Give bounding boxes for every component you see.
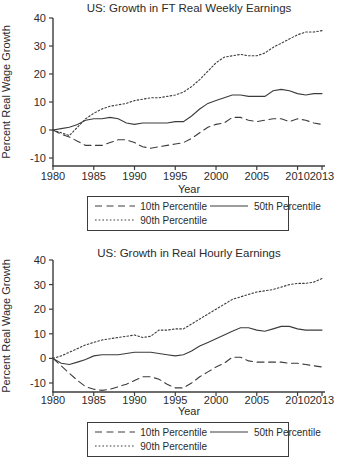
hourly-earnings-chart: 403020100-101980198519901995200020052010… — [0, 243, 340, 469]
x-tick-label: 1995 — [163, 170, 187, 182]
x-tick-label: 2010 — [285, 170, 309, 182]
legend-item-50th-percentile: 50th Percentile — [209, 201, 321, 212]
series-line-50th-percentile — [53, 89, 322, 130]
x-tick-label: 1990 — [122, 394, 146, 406]
y-tick-label: 40 — [34, 254, 46, 266]
x-tick-label: 1985 — [82, 394, 106, 406]
chart-title: US: Growth in Real Hourly Earnings — [53, 247, 325, 259]
y-tick-label: 0 — [40, 124, 46, 136]
x-tick-label: 1980 — [41, 170, 65, 182]
legend-row: 10th Percentile 50th Percentile — [94, 199, 284, 213]
legend-row: 90th Percentile — [94, 439, 284, 453]
x-tick-label: 1980 — [41, 394, 65, 406]
legend: 10th Percentile 50th Percentile 90th Per… — [87, 422, 289, 457]
legend-row: 90th Percentile — [94, 213, 284, 227]
y-tick-label: 20 — [34, 68, 46, 80]
dotted-line-sample — [94, 215, 135, 225]
dotted-line-sample — [94, 441, 135, 451]
plot-area-hourly: 403020100-101980198519901995200020052010… — [0, 243, 340, 419]
x-tick-label: 2000 — [204, 394, 228, 406]
solid-line-sample — [209, 427, 249, 437]
legend: 10th Percentile 50th Percentile 90th Per… — [87, 196, 289, 231]
x-tick-label: 1985 — [82, 170, 106, 182]
x-tick-label: 2000 — [204, 170, 228, 182]
y-tick-label: -10 — [30, 377, 46, 389]
y-tick-label: 40 — [34, 12, 46, 24]
series-line-90th-percentile — [53, 279, 322, 359]
x-tick-label: 1990 — [122, 170, 146, 182]
x-axis-title: Year — [178, 183, 201, 195]
series-line-50th-percentile — [53, 326, 322, 364]
legend-label: 50th Percentile — [254, 427, 321, 438]
long-dash-line-sample — [94, 201, 135, 211]
series-line-10th-percentile — [53, 117, 322, 148]
y-axis-title: Percent Real Wage Growth — [0, 25, 12, 158]
long-dash-line-sample — [94, 427, 135, 437]
weekly-earnings-chart: 403020100-101980198519901995200020052010… — [0, 0, 340, 234]
y-axis-title: Percent Real Wage Growth — [0, 259, 12, 392]
series-line-10th-percentile — [53, 357, 322, 390]
legend-item-10th-percentile: 10th Percentile — [94, 427, 207, 438]
x-tick-label: 2013 — [310, 394, 334, 406]
legend-label: 90th Percentile — [140, 441, 207, 452]
legend-row: 10th Percentile 50th Percentile — [94, 425, 284, 439]
x-tick-label: 2005 — [245, 394, 269, 406]
series-line-90th-percentile — [53, 31, 322, 136]
legend-item-10th-percentile: 10th Percentile — [94, 201, 207, 212]
y-tick-label: 30 — [34, 40, 46, 52]
x-tick-label: 2005 — [245, 170, 269, 182]
y-tick-label: 20 — [34, 303, 46, 315]
chart-title: US: Growth in FT Real Weekly Earnings — [53, 2, 325, 14]
x-axis-title: Year — [178, 405, 201, 417]
solid-line-sample — [209, 201, 249, 211]
y-tick-label: 0 — [40, 352, 46, 364]
legend-item-90th-percentile: 90th Percentile — [94, 441, 207, 452]
x-tick-label: 2010 — [285, 394, 309, 406]
y-tick-label: -10 — [30, 152, 46, 164]
y-tick-label: 30 — [34, 279, 46, 291]
y-tick-label: 10 — [34, 328, 46, 340]
y-tick-label: 10 — [34, 96, 46, 108]
plot-area-weekly: 403020100-101980198519901995200020052010… — [0, 0, 340, 196]
legend-item-50th-percentile: 50th Percentile — [209, 427, 321, 438]
legend-label: 10th Percentile — [140, 201, 207, 212]
legend-item-90th-percentile: 90th Percentile — [94, 215, 207, 226]
x-tick-label: 2013 — [310, 170, 334, 182]
legend-label: 10th Percentile — [140, 427, 207, 438]
legend-label: 50th Percentile — [254, 201, 321, 212]
legend-label: 90th Percentile — [140, 215, 207, 226]
